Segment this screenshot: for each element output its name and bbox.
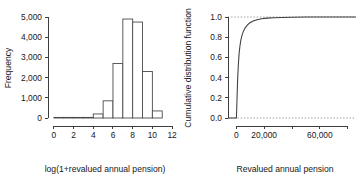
x-tick-label: 60,000 — [307, 130, 333, 140]
cdf-panel: 0.00.20.40.60.81.0 020,00060,000 Revalue… — [180, 0, 361, 180]
y-tick-label: 3,000 — [21, 52, 42, 62]
x-tick-label: 2 — [71, 130, 76, 140]
y-tick-label: 0.8 — [210, 32, 222, 42]
histogram-bar — [64, 117, 74, 118]
y-tick-label: 2,000 — [21, 73, 42, 83]
histogram-bar — [152, 111, 162, 118]
cdf-y-axis-title: Cumulative distribution function — [183, 8, 193, 128]
histogram-bar — [123, 19, 133, 118]
histogram-panel: 01,0002,0003,0004,0005,000 024681012 log… — [0, 0, 181, 180]
cdf-reference-lines — [228, 17, 356, 118]
histogram-bar — [74, 117, 84, 118]
x-tick-label: 0 — [234, 130, 239, 140]
histogram-bar — [103, 101, 113, 118]
cdf-x-axis-title: Revalued annual pension — [237, 164, 334, 174]
y-tick-label: 0.0 — [210, 113, 222, 123]
cdf-x-tick-labels: 020,00060,000 — [234, 130, 333, 140]
histogram-bar — [113, 63, 123, 118]
x-tick-label: 12 — [167, 130, 177, 140]
histogram-y-tick-labels: 01,0002,0003,0004,0005,000 — [21, 12, 42, 123]
y-tick-label: 1,000 — [21, 93, 42, 103]
histogram-bar — [93, 114, 103, 118]
histogram-bars — [54, 19, 162, 118]
histogram-x-tick-labels: 024681012 — [52, 130, 177, 140]
histogram-svg: 01,0002,0003,0004,0005,000 024681012 log… — [0, 0, 181, 180]
cdf-curve — [228, 17, 356, 118]
histogram-x-axis-title: log(1+revalued annual pension) — [45, 164, 166, 174]
y-tick-label: 1.0 — [210, 12, 222, 22]
x-tick-label: 20,000 — [251, 130, 277, 140]
histogram-y-axis-title: Frequency — [3, 47, 13, 88]
x-tick-label: 10 — [148, 130, 158, 140]
x-tick-label: 8 — [130, 130, 135, 140]
histogram-bar — [133, 22, 143, 118]
two-panel-figure: 01,0002,0003,0004,0005,000 024681012 log… — [0, 0, 361, 180]
cdf-y-tick-labels: 0.00.20.40.60.81.0 — [210, 12, 222, 123]
x-tick-label: 0 — [52, 130, 57, 140]
y-tick-label: 4,000 — [21, 32, 42, 42]
histogram-bar — [143, 72, 153, 118]
cdf-svg: 0.00.20.40.60.81.0 020,00060,000 Revalue… — [180, 0, 361, 180]
y-tick-label: 5,000 — [21, 12, 42, 22]
histogram-bar — [83, 117, 93, 118]
x-tick-label: 4 — [91, 130, 96, 140]
y-tick-label: 0.2 — [210, 93, 222, 103]
y-tick-label: 0 — [37, 113, 42, 123]
x-tick-label: 6 — [111, 130, 116, 140]
y-tick-label: 0.4 — [210, 73, 222, 83]
histogram-bar — [54, 117, 64, 118]
y-tick-label: 0.6 — [210, 52, 222, 62]
